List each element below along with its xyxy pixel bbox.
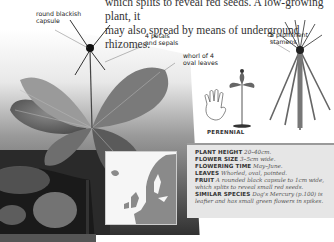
- page-bottom-margin: [96, 235, 334, 242]
- fact-fruit-cont: which splits to reveal small red seeds.: [187, 184, 334, 191]
- fact-fruit: FRUIT A rounded black capsule to 1cm wid…: [187, 177, 334, 184]
- callout-petals: 4 petals and sepals: [145, 32, 178, 46]
- intro-line-1: which splits to reveal red seeds. A low-…: [105, 0, 334, 23]
- callout-stamens: 8 prominent stamens: [270, 31, 308, 45]
- callout-leaves: whorl of 4 oval leaves: [183, 52, 218, 66]
- fact-plant-height: PLANT HEIGHT 20–40cm.: [187, 149, 334, 156]
- fact-similar-species-cont: leafier and has small green flowers in s…: [187, 198, 334, 205]
- fact-box: PLANT HEIGHT 20–40cm. FLOWER SIZE 3–5cm …: [187, 143, 334, 218]
- fact-similar-species: SIMILAR SPECIES Dog's Mercury (p.100) is: [187, 191, 334, 198]
- distribution-map: [105, 151, 177, 225]
- hand-icon: [203, 88, 227, 122]
- fact-flowering-time: FLOWERING TIME May–June.: [187, 163, 334, 170]
- fact-leaves: LEAVES Whorled, oval, pointed.: [187, 170, 334, 177]
- fact-flower-size: FLOWER SIZE 3–5cm wide.: [187, 156, 334, 163]
- field-guide-page: which splits to reveal red seeds. A low-…: [0, 0, 334, 242]
- callout-capsule: round blackish capsule: [36, 10, 81, 24]
- perennial-label: PERENNIAL: [207, 129, 245, 135]
